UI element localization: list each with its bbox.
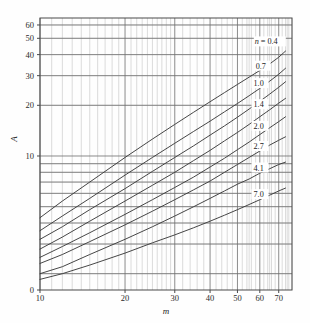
y-tick-label-10: 10 [26,151,35,161]
y-axis-title: A [9,136,19,143]
y-tick-label-40: 40 [26,50,35,60]
x-tick-label-70: 70 [274,293,283,303]
curve-label-n-symbol: n [255,37,259,46]
y-tick-label-0: 0 [30,285,34,295]
y-tick-label-30: 30 [26,71,35,81]
curve-label-1-0: 1.0 [254,79,264,88]
curve-label-n-0-4: = 0.4 [261,37,278,46]
x-tick-label-10: 10 [36,293,45,303]
curve-label-7-0: 7.0 [254,190,264,199]
log-log-chart: n= 0.40.71.01.42.02.74.17.0 102030405060… [0,0,310,323]
chart-container: n= 0.40.71.01.42.02.74.17.0 102030405060… [0,0,310,323]
x-tick-label-50: 50 [233,293,242,303]
x-axis-title: m [163,306,170,316]
chart-background [0,0,310,323]
curve-label-1-4: 1.4 [254,100,264,109]
x-tick-label-60: 60 [256,293,265,303]
curve-label-2-7: 2.7 [254,142,264,151]
x-tick-label-40: 40 [206,293,215,303]
y-tick-label-50: 50 [26,33,35,43]
x-tick-label-30: 30 [171,293,180,303]
curve-label-0-7: 0.7 [256,62,266,71]
x-tick-label-20: 20 [121,293,130,303]
curve-label-4-1: 4.1 [254,164,264,173]
y-tick-label-60: 60 [26,20,35,30]
curve-label-2-0: 2.0 [254,122,264,131]
y-tick-label-20: 20 [26,100,35,110]
